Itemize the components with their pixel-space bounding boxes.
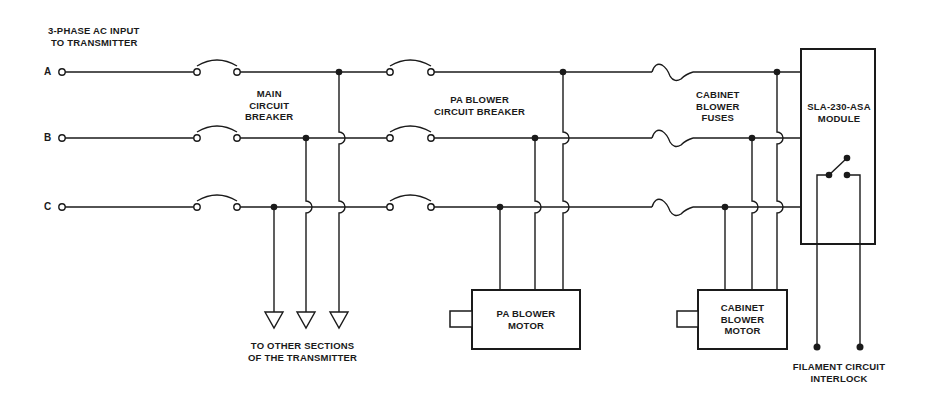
breaker-arc-icon — [390, 60, 431, 66]
terminal-a-icon — [59, 69, 65, 75]
breaker-arc-icon — [197, 60, 237, 66]
phase-b-label: B — [44, 132, 51, 144]
phase-a-line — [59, 60, 801, 80]
phase-b-line — [59, 126, 801, 146]
cabinet-fuses-label: CABINET BLOWER FUSES — [696, 89, 740, 124]
sla-module — [801, 49, 875, 244]
cabinet-motor-label: CABINET BLOWER MOTOR — [700, 302, 785, 337]
cabinet-motor-shaft-icon — [677, 311, 698, 327]
phase-c-line — [59, 195, 801, 215]
main-breaker-label: MAIN CIRCUIT BREAKER — [245, 88, 293, 123]
ground-arrow-icon — [330, 312, 348, 328]
fuse-icon — [652, 64, 693, 80]
title-label: 3-PHASE AC INPUT TO TRANSMITTER — [48, 25, 140, 48]
pa-breaker-label: PA BLOWER CIRCUIT BREAKER — [434, 94, 525, 117]
schematic-canvas — [0, 0, 931, 395]
ground-arrow-icon — [297, 312, 315, 328]
phase-a-label: A — [44, 66, 51, 78]
pa-motor-shaft-icon — [450, 311, 472, 327]
interlock-label: FILAMENT CIRCUIT INTERLOCK — [787, 361, 891, 384]
phase-c-label: C — [44, 201, 51, 213]
ground-arrow-icon — [265, 312, 283, 328]
other-sections-label: TO OTHER SECTIONS OF THE TRANSMITTER — [248, 340, 357, 363]
pa-motor-label: PA BLOWER MOTOR — [474, 308, 578, 331]
module-label: SLA-230-ASA MODULE — [804, 101, 874, 124]
